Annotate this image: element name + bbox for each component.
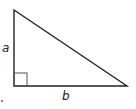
stray-dot bbox=[1, 100, 3, 102]
right-angle-marker bbox=[14, 73, 27, 86]
label-side-a: a bbox=[2, 41, 9, 55]
right-triangle-diagram: a b bbox=[0, 0, 136, 109]
triangle-shape bbox=[14, 10, 127, 86]
label-side-b: b bbox=[62, 89, 70, 103]
